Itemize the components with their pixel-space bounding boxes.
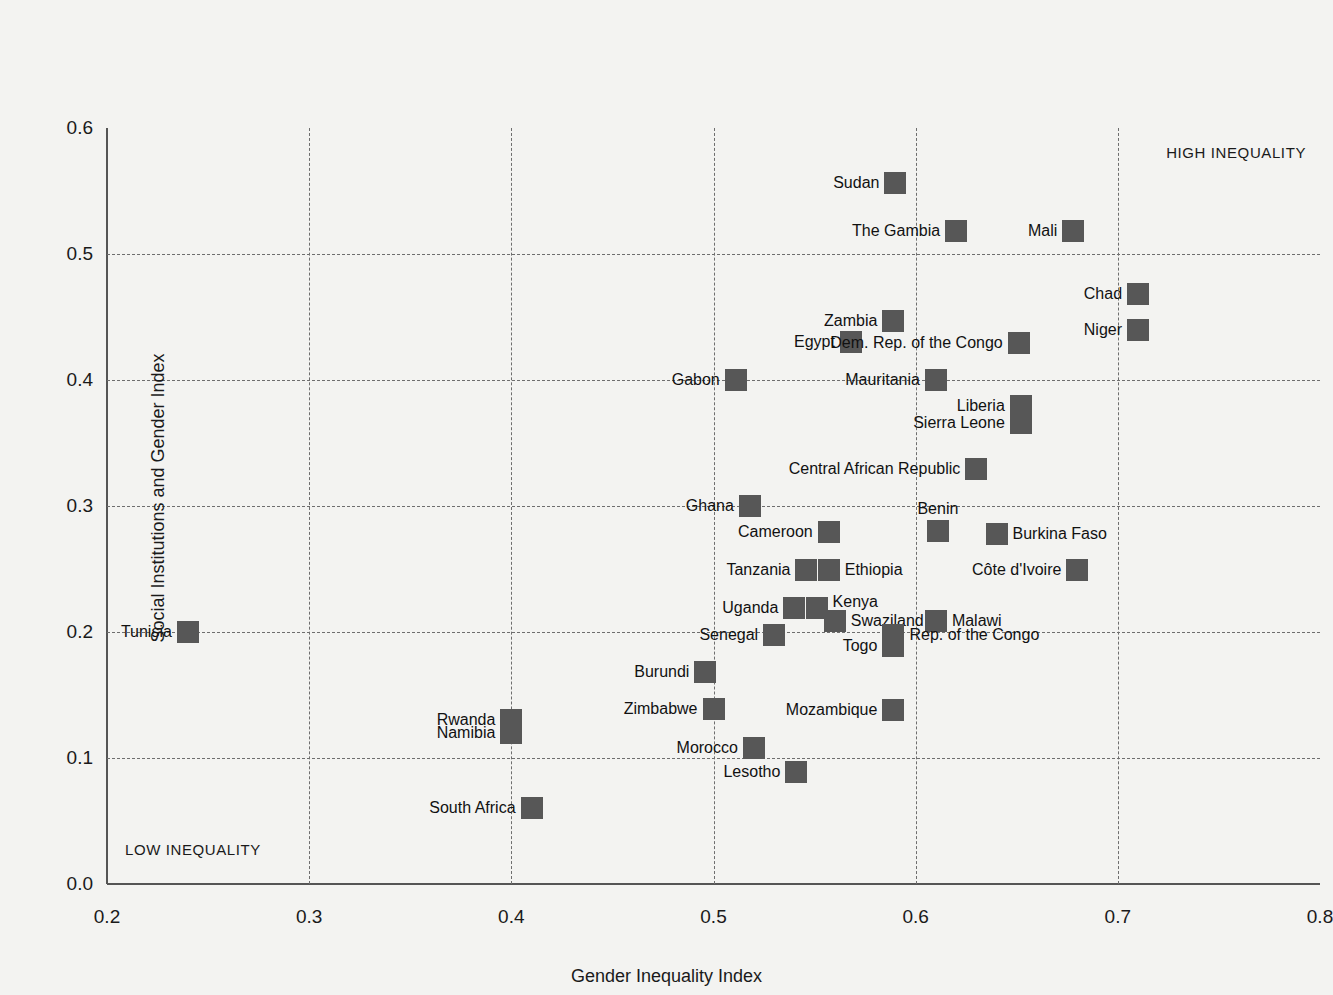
- data-point-marker[interactable]: Lesotho: [785, 761, 807, 783]
- data-point-marker[interactable]: Namibia: [500, 722, 522, 744]
- data-point-marker[interactable]: Côte d'Ivoire: [1066, 559, 1088, 581]
- gridline-vertical: [511, 128, 512, 884]
- x-axis-title: Gender Inequality Index: [0, 966, 1333, 987]
- data-point-marker[interactable]: Ghana: [739, 495, 761, 517]
- low-inequality-annotation: LOW INEQUALITY: [125, 841, 261, 858]
- data-point-marker[interactable]: Mauritania: [925, 369, 947, 391]
- x-tick-label: 0.7: [1105, 906, 1131, 928]
- data-point-label: Cameroon: [738, 524, 813, 540]
- data-point-label: Senegal: [699, 627, 758, 643]
- data-point-label: Egypt: [794, 334, 835, 350]
- data-point-marker[interactable]: South Africa: [521, 797, 543, 819]
- data-point-marker[interactable]: Zimbabwe: [703, 698, 725, 720]
- data-point-marker[interactable]: Tunisia: [177, 621, 199, 643]
- data-point-marker[interactable]: Mali: [1062, 220, 1084, 242]
- data-point-label: Mauritania: [845, 372, 920, 388]
- data-point-marker[interactable]: Sierra Leone: [1010, 412, 1032, 434]
- y-tick-label: 0.5: [67, 243, 93, 265]
- data-point-label: Togo: [843, 638, 878, 654]
- data-point-label: Niger: [1084, 322, 1122, 338]
- data-point-label: Burundi: [634, 664, 689, 680]
- data-point-marker[interactable]: Morocco: [743, 737, 765, 759]
- data-point-label: Sierra Leone: [913, 415, 1005, 431]
- data-point-label: The Gambia: [852, 223, 940, 239]
- data-point-label: Zambia: [824, 313, 877, 329]
- data-point-marker[interactable]: Tanzania: [795, 559, 817, 581]
- data-point-marker[interactable]: Chad: [1127, 283, 1149, 305]
- data-point-label: Liberia: [957, 398, 1005, 414]
- data-point-marker[interactable]: Mozambique: [882, 699, 904, 721]
- data-point-label: Dem. Rep. of the Congo: [830, 335, 1003, 351]
- data-point-label: Sudan: [833, 175, 879, 191]
- y-tick-label: 0.1: [67, 747, 93, 769]
- data-point-label: Rep. of the Congo: [909, 627, 1039, 643]
- data-point-marker[interactable]: Dem. Rep. of the Congo: [1008, 332, 1030, 354]
- data-point-marker[interactable]: Benin: [927, 520, 949, 542]
- data-point-label: Tanzania: [726, 562, 790, 578]
- data-point-label: Uganda: [722, 600, 778, 616]
- x-tick-label: 0.2: [94, 906, 120, 928]
- data-point-marker[interactable]: Senegal: [763, 624, 785, 646]
- y-tick-label: 0.4: [67, 369, 93, 391]
- data-point-label: Morocco: [677, 740, 738, 756]
- data-point-marker[interactable]: Niger: [1127, 319, 1149, 341]
- data-point-label: South Africa: [429, 800, 515, 816]
- data-point-marker[interactable]: Ethiopia: [818, 559, 840, 581]
- data-point-marker[interactable]: Cameroon: [818, 521, 840, 543]
- data-point-marker[interactable]: Burkina Faso: [986, 523, 1008, 545]
- data-point-label: Namibia: [437, 725, 496, 741]
- x-tick-label: 0.4: [498, 906, 524, 928]
- data-point-label: Zimbabwe: [624, 701, 698, 717]
- y-tick-label: 0.2: [67, 621, 93, 643]
- data-point-label: Ghana: [686, 498, 734, 514]
- data-point-label: Mozambique: [786, 702, 878, 718]
- data-point-label: Benin: [917, 501, 958, 517]
- gridline-vertical: [1118, 128, 1119, 884]
- scatter-plot-area: 0.00.10.20.30.40.50.6 0.20.30.40.50.60.7…: [107, 128, 1320, 884]
- x-tick-label: 0.3: [296, 906, 322, 928]
- data-point-marker[interactable]: Sudan: [884, 172, 906, 194]
- data-point-marker[interactable]: Burundi: [694, 661, 716, 683]
- y-axis-title: Social Institutions and Gender Index: [148, 353, 169, 642]
- gridline-vertical: [309, 128, 310, 884]
- y-tick-label: 0.3: [67, 495, 93, 517]
- y-tick-label: 0.0: [67, 873, 93, 895]
- data-point-label: Ethiopia: [845, 562, 903, 578]
- data-point-label: Burkina Faso: [1013, 526, 1107, 542]
- data-point-label: Kenya: [833, 594, 878, 610]
- x-tick-label: 0.6: [902, 906, 928, 928]
- data-point-label: Central African Republic: [789, 461, 961, 477]
- data-point-marker[interactable]: Gabon: [725, 369, 747, 391]
- data-point-marker[interactable]: Central African Republic: [965, 458, 987, 480]
- data-point-label: Mali: [1028, 223, 1057, 239]
- high-inequality-annotation: HIGH INEQUALITY: [1166, 144, 1306, 161]
- y-tick-label: 0.6: [67, 117, 93, 139]
- data-point-marker[interactable]: Uganda: [783, 597, 805, 619]
- data-point-label: Gabon: [672, 372, 720, 388]
- x-tick-label: 0.8: [1307, 906, 1333, 928]
- data-point-marker[interactable]: Togo: [882, 635, 904, 657]
- data-point-label: Chad: [1084, 286, 1122, 302]
- data-point-marker[interactable]: Swaziland: [824, 610, 846, 632]
- data-point-label: Côte d'Ivoire: [972, 562, 1061, 578]
- chart-page: 0.00.10.20.30.40.50.6 0.20.30.40.50.60.7…: [0, 0, 1333, 995]
- data-point-marker[interactable]: Zambia: [882, 310, 904, 332]
- data-point-label: Lesotho: [723, 764, 780, 780]
- x-tick-label: 0.5: [700, 906, 726, 928]
- data-point-marker[interactable]: The Gambia: [945, 220, 967, 242]
